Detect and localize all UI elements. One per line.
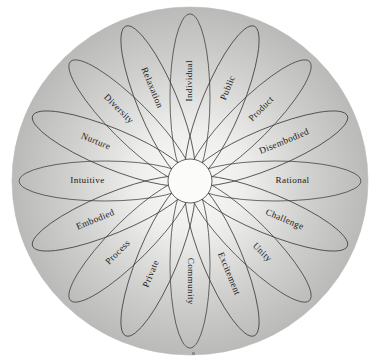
petal-label-intuitive: Intuitive: [70, 175, 104, 185]
petal-label-community: Community: [186, 258, 196, 305]
petal-label-individual: Individual: [184, 60, 194, 101]
center-hub: [168, 159, 212, 203]
wheel-svg: IndividualPublicProductDisembodiedRation…: [0, 0, 386, 362]
petal-label-rational: Rational: [276, 175, 310, 185]
footer-mark: [192, 352, 195, 355]
petal-wheel-diagram: IndividualPublicProductDisembodiedRation…: [0, 0, 386, 362]
